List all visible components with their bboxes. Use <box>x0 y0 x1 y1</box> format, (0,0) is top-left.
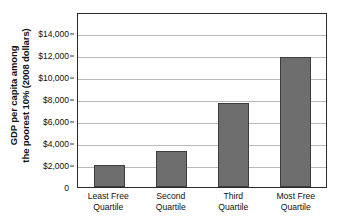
y-axis-title: GDP per capita among the poorest 10% (20… <box>0 0 38 190</box>
y-axis-title-line-1: GDP per capita among <box>8 28 20 162</box>
bar <box>94 165 125 187</box>
x-category-label-line: Second <box>140 191 202 202</box>
x-category-label: ThirdQuartile <box>202 191 264 221</box>
bar-chart-figure: GDP per capita among the poorest 10% (20… <box>0 0 338 223</box>
x-category-label: Most FreeQuartile <box>265 191 327 221</box>
x-category-label: SecondQuartile <box>140 191 202 221</box>
y-tick-label: $14,000 <box>38 29 69 39</box>
y-tick-label: 0 <box>64 183 69 193</box>
plot-area <box>77 13 327 188</box>
bar <box>280 57 311 187</box>
x-category-label-line: Third <box>202 191 264 202</box>
bar <box>156 151 187 187</box>
y-axis-tick-labels: 0$2,000$4,000$6,000$8,000$10,000$12,000$… <box>34 13 74 188</box>
bar-series <box>78 14 326 187</box>
x-category-label-line: Most Free <box>265 191 327 202</box>
x-category-label-line: Quartile <box>77 202 139 213</box>
y-tick-label: $8,000 <box>43 95 69 105</box>
x-category-label-line: Quartile <box>140 202 202 213</box>
y-tick-mark <box>70 121 74 122</box>
y-axis-title-line-2: the poorest 10% (2008 dollars) <box>19 28 31 162</box>
y-tick-mark <box>70 99 74 100</box>
bar <box>218 103 249 187</box>
y-tick-mark <box>70 77 74 78</box>
x-category-label-line: Quartile <box>202 202 264 213</box>
y-tick-mark <box>70 143 74 144</box>
y-tick-mark <box>70 165 74 166</box>
y-tick-mark <box>70 33 74 34</box>
y-tick-label: $10,000 <box>38 73 69 83</box>
y-tick-label: $2,000 <box>43 161 69 171</box>
y-tick-label: $6,000 <box>43 117 69 127</box>
x-category-label-line: Quartile <box>265 202 327 213</box>
x-category-label-line: Least Free <box>77 191 139 202</box>
y-tick-label: $12,000 <box>38 51 69 61</box>
x-axis-category-labels: Least FreeQuartileSecondQuartileThirdQua… <box>77 191 327 221</box>
y-tick-mark <box>70 55 74 56</box>
x-category-label: Least FreeQuartile <box>77 191 139 221</box>
y-tick-label: $4,000 <box>43 139 69 149</box>
